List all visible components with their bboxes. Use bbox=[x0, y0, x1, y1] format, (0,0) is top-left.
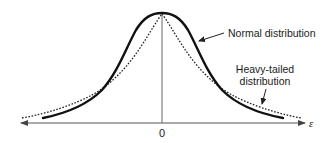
heavy-tailed-label-line1: Heavy-tailed bbox=[236, 63, 295, 75]
distribution-diagram: Normal distribution Heavy-tailed distrib… bbox=[0, 0, 331, 143]
normal-pointer-arrow bbox=[199, 33, 224, 41]
x-axis-symbol: ε bbox=[309, 117, 314, 129]
heavy-tailed-label-line2: distribution bbox=[240, 75, 291, 87]
heavy-tailed-pointer-arrow bbox=[262, 89, 266, 104]
diagram-canvas: Normal distribution Heavy-tailed distrib… bbox=[0, 0, 331, 143]
normal-distribution-label: Normal distribution bbox=[228, 27, 316, 39]
origin-tick-label: 0 bbox=[159, 127, 165, 139]
